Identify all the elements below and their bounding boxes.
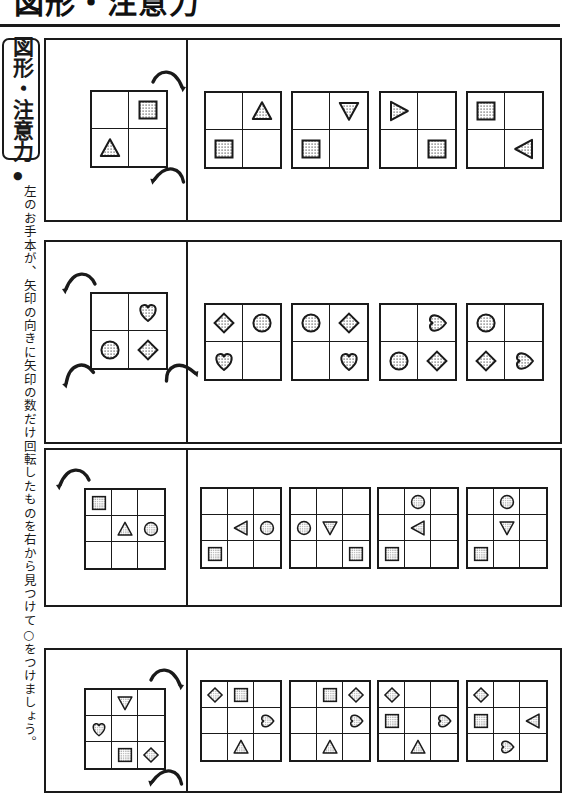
grid-cell: [202, 734, 228, 760]
option-grid[interactable]: [291, 91, 369, 169]
heart-up-icon: [90, 720, 108, 738]
grid-cell: [254, 708, 280, 734]
grid-cell: [291, 489, 317, 515]
grid-cell: [206, 342, 243, 379]
options-zone: [190, 650, 560, 791]
triangle-down-icon: [116, 694, 134, 712]
option-grid[interactable]: [291, 303, 369, 381]
grid-cell: [468, 130, 505, 167]
grid-cell: [129, 294, 166, 331]
rotate-cw-arrow-icon: [142, 754, 190, 797]
grid-cell: [291, 734, 317, 760]
example-zone: [46, 242, 186, 442]
grid-cell: [317, 708, 343, 734]
grid-cell: [317, 541, 343, 567]
grid-cell: [86, 742, 112, 768]
heart-right-icon: [435, 712, 453, 730]
grid-cell: [343, 708, 369, 734]
grid-cell: [468, 541, 494, 567]
grid-cell: [291, 682, 317, 708]
grid-cell: [92, 294, 129, 331]
grid-cell: [254, 734, 280, 760]
problem-panel: [44, 448, 562, 607]
option-grid[interactable]: [466, 680, 548, 762]
grid-cell: [86, 716, 112, 742]
option-grid[interactable]: [379, 303, 457, 381]
option-grid[interactable]: [204, 303, 282, 381]
option-grid[interactable]: [379, 91, 457, 169]
example-zone: [46, 450, 186, 605]
grid-cell: [112, 516, 138, 542]
diamond-icon: [347, 686, 365, 704]
square-icon: [206, 545, 224, 563]
diamond-icon: [383, 686, 401, 704]
rotate-ccw-arrow-icon: [58, 262, 98, 298]
diamond-icon: [212, 311, 236, 335]
option-grid[interactable]: [204, 91, 282, 169]
example-grid: [90, 292, 168, 370]
grid-cell: [520, 734, 546, 760]
grid-cell: [206, 93, 243, 130]
grid-cell: [243, 130, 280, 167]
grid-cell: [291, 515, 317, 541]
grid-cell: [254, 489, 280, 515]
option-grid[interactable]: [466, 487, 548, 569]
option-grid[interactable]: [466, 303, 544, 381]
grid-cell: [418, 130, 455, 167]
grid-cell: [431, 489, 457, 515]
heart-right-icon: [347, 712, 365, 730]
heart-right-icon: [512, 349, 536, 373]
options-zone: [190, 450, 560, 605]
grid-cell: [505, 130, 542, 167]
grid-cell: [381, 305, 418, 342]
grid-cell: [520, 708, 546, 734]
grid-cell: [520, 515, 546, 541]
grid-cell: [431, 515, 457, 541]
grid-cell: [405, 682, 431, 708]
category-badge-label: 図形・注意力: [10, 36, 31, 162]
left-rail: 図形・注意力 ● 左のお手本が、矢印の向きに矢印の数だけ回転したものを右から見つ…: [0, 30, 44, 785]
triangle-up-icon: [250, 99, 274, 123]
grid-cell: [405, 515, 431, 541]
circle-icon: [409, 493, 427, 511]
grid-cell: [381, 130, 418, 167]
option-grid[interactable]: [289, 680, 371, 762]
option-grid[interactable]: [466, 91, 544, 169]
grid-cell: [494, 541, 520, 567]
grid-cell: [405, 489, 431, 515]
grid-cell: [330, 342, 367, 379]
triangle-left-icon: [409, 519, 427, 537]
grid-cell: [520, 682, 546, 708]
heart-up-icon: [136, 300, 160, 324]
circle-icon: [474, 311, 498, 335]
grid-cell: [468, 734, 494, 760]
circle-icon: [142, 520, 160, 538]
page-title: 図形・注意力: [14, 0, 200, 22]
grid-cell: [520, 541, 546, 567]
option-grid[interactable]: [377, 487, 459, 569]
grid-cell: [343, 515, 369, 541]
square-icon: [383, 712, 401, 730]
diamond-icon: [206, 686, 224, 704]
grid-cell: [505, 305, 542, 342]
square-icon: [472, 712, 490, 730]
grid-cell: [92, 92, 129, 129]
grid-cell: [494, 708, 520, 734]
grid-cell: [343, 682, 369, 708]
option-grid[interactable]: [200, 680, 282, 762]
panel-divider: [186, 450, 188, 605]
grid-cell: [228, 541, 254, 567]
option-grid[interactable]: [289, 487, 371, 569]
option-grid[interactable]: [377, 680, 459, 762]
grid-cell: [112, 542, 138, 568]
grid-cell: [381, 342, 418, 379]
grid-cell: [468, 682, 494, 708]
grid-cell: [228, 708, 254, 734]
option-grid[interactable]: [200, 487, 282, 569]
square-icon: [136, 98, 160, 122]
triangle-right-icon: [387, 99, 411, 123]
grid-cell: [468, 93, 505, 130]
grid-cell: [202, 515, 228, 541]
grid-cell: [330, 93, 367, 130]
